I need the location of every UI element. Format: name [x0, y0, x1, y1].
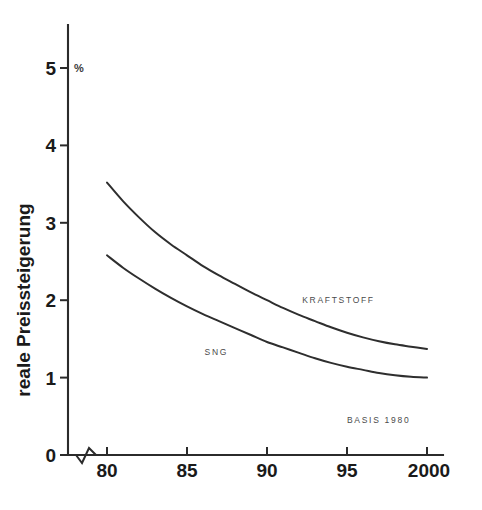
y-tick-label-3: 3 [45, 213, 56, 234]
y-tick-label-1: 1 [45, 368, 56, 389]
x-tick-label-95: 95 [336, 460, 358, 481]
x-tick-label-85: 85 [176, 460, 198, 481]
percent-unit-label: % [74, 62, 84, 74]
chart-background [0, 0, 482, 510]
y-axis-title: reale Preissteigerung [13, 203, 34, 396]
y-tick-label-0: 0 [45, 445, 56, 466]
y-tick-label-4: 4 [45, 135, 56, 156]
series-label-sng: SNG [205, 347, 229, 357]
series-label-kraftstoff: KRAFTSTOFF [302, 295, 375, 305]
y-tick-label-5: 5 [45, 58, 56, 79]
x-tick-label-2000: 2000 [408, 460, 450, 481]
x-tick-label-80: 80 [96, 460, 117, 481]
y-tick-label-2: 2 [45, 290, 56, 311]
price-increase-line-chart: 0 1 2 3 4 5 % 80 85 90 95 2000 reale Pre… [0, 0, 482, 510]
basis-annotation: BASIS 1980 [347, 415, 410, 425]
x-tick-label-90: 90 [256, 460, 277, 481]
chart-figure: 0 1 2 3 4 5 % 80 85 90 95 2000 reale Pre… [0, 0, 482, 510]
